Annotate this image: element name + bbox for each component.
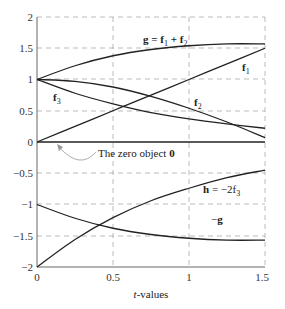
x-tick-labels: 0 0.5 1 1.5 [34, 271, 269, 283]
y-tick: 1 [28, 73, 34, 85]
y-tick: −2 [21, 261, 33, 273]
label-f2: f2 [194, 96, 202, 111]
y-tick: 2 [28, 11, 34, 23]
label-neg-g: −g [211, 213, 223, 225]
zero-object-arrow [60, 148, 96, 160]
y-tick: 1.5 [19, 42, 33, 54]
x-axis-label: t-values [134, 288, 169, 300]
series-line [37, 80, 265, 138]
label-h: h = −2f3 [203, 183, 240, 198]
y-tick: −0.5 [13, 167, 33, 179]
y-tick: 0.5 [19, 105, 33, 117]
x-tick: 0 [34, 271, 40, 283]
series-line [37, 48, 265, 142]
x-tick: 1.5 [255, 271, 269, 283]
label-zero-object: The zero object 0 [98, 147, 175, 159]
series-line [37, 80, 265, 129]
chart: 2 1.5 1 0.5 0 −0.5 −1 −1.5 −2 0 0.5 1 1.… [0, 0, 285, 309]
label-f3: f3 [53, 91, 61, 106]
y-tick: −1 [21, 198, 33, 210]
y-tick-labels: 2 1.5 1 0.5 0 −0.5 −1 −1.5 −2 [13, 11, 33, 273]
y-tick: 0 [28, 136, 34, 148]
series-line [37, 205, 265, 241]
x-tick: 0.5 [106, 271, 120, 283]
x-tick: 1 [186, 271, 192, 283]
label-f1: f1 [242, 61, 250, 76]
y-tick: −1.5 [13, 230, 33, 242]
